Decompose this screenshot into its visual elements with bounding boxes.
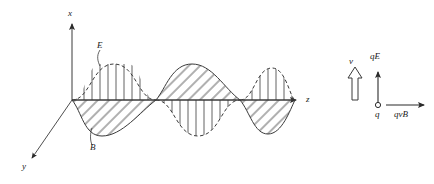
charge-circle (375, 102, 380, 107)
field-label-b: B (90, 143, 96, 152)
e-leader-line (98, 50, 100, 66)
electric-force-label: qE (370, 52, 380, 61)
figure-canvas: x y z E B v qE q qvB (0, 0, 434, 184)
e-lobe-1-fill (72, 64, 156, 100)
axis-label-x: x (68, 9, 72, 18)
velocity-arrow (348, 67, 362, 100)
axis-label-z: z (306, 95, 310, 104)
b-lobe-1 (72, 100, 156, 136)
e-lobe-2-fill (156, 100, 240, 136)
b-lobe-3 (240, 100, 295, 134)
magnetic-force-label: qvB (394, 110, 408, 119)
axis-label-y: y (22, 162, 26, 171)
y-axis-line (32, 100, 72, 158)
e-lobe-3-fill (240, 68, 295, 100)
force-diagram (348, 67, 424, 108)
field-label-e: E (97, 41, 103, 50)
em-wave-svg (0, 0, 434, 184)
b-lobe-2 (156, 64, 240, 100)
charge-label: q (375, 110, 380, 119)
velocity-label: v (349, 57, 353, 66)
